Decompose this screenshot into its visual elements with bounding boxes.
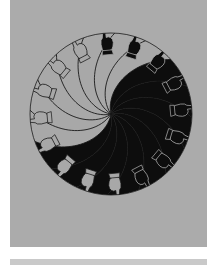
- artwork-panel: [10, 0, 207, 247]
- generated-artwork-group: [27, 30, 195, 198]
- bottom-band: [10, 259, 207, 265]
- artwork-canvas: [0, 0, 212, 265]
- white-gutter: [0, 247, 212, 259]
- spiral-hands-figure: [10, 0, 207, 247]
